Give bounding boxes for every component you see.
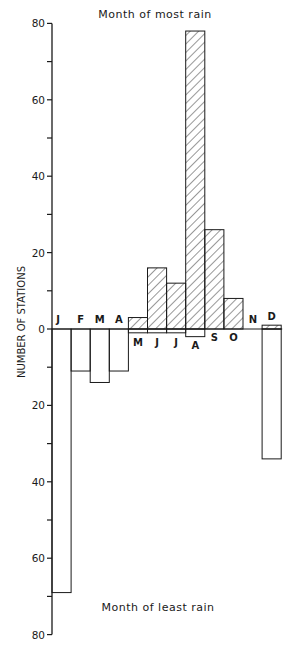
month-label-november: N: [249, 314, 257, 325]
bar-most-rain-october: [224, 298, 243, 329]
bar-least-rain-january: [52, 329, 71, 593]
bar-most-rain-june: [148, 268, 167, 329]
y-tick-label: 80: [32, 17, 45, 29]
bars: [52, 31, 281, 593]
bar-least-rain-april: [109, 329, 128, 371]
month-label-september: S: [211, 332, 218, 343]
month-label-march: M: [95, 314, 105, 325]
bar-least-rain-february: [71, 329, 90, 371]
month-label-august: A: [191, 340, 199, 351]
month-label-january: J: [55, 314, 60, 325]
y-tick-label: 20: [32, 247, 45, 259]
bar-most-rain-september: [205, 230, 224, 329]
y-tick-label: 0: [38, 323, 45, 335]
month-label-june: J: [154, 337, 159, 348]
bar-most-rain-july: [167, 283, 186, 329]
y-tick-label: 80: [32, 629, 45, 641]
y-axis-label: NUMBER OF STATIONS: [16, 266, 27, 378]
y-tick-label: 20: [32, 399, 45, 411]
month-label-february: F: [77, 314, 84, 325]
month-label-may: M: [133, 337, 143, 348]
bar-least-rain-august: [186, 329, 205, 337]
y-tick-label: 40: [32, 476, 45, 488]
title-least-rain: Month of least rain: [102, 601, 215, 614]
month-label-october: O: [229, 332, 238, 343]
y-tick-label: 40: [32, 170, 45, 182]
title-most-rain: Month of most rain: [98, 8, 211, 21]
month-label-december: D: [267, 311, 275, 322]
bar-least-rain-december: [262, 329, 281, 459]
rainfall-histogram: Month of most rain Month of least rain N…: [0, 0, 290, 651]
month-label-july: J: [173, 337, 178, 348]
bar-least-rain-march: [90, 329, 109, 382]
bar-most-rain-december: [262, 325, 281, 329]
bar-most-rain-may: [128, 318, 147, 329]
y-tick-label: 60: [32, 94, 45, 106]
y-tick-label: 60: [32, 552, 45, 564]
bar-most-rain-august: [186, 31, 205, 329]
month-label-april: A: [115, 314, 123, 325]
